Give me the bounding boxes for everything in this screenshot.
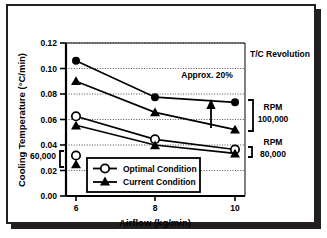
legend-item-label: Optimal Condition: [123, 164, 197, 174]
rpm-80000-label-line1: RPM: [264, 137, 283, 147]
x-tick-label: 6: [74, 203, 79, 213]
chart-figure: 0.00 0.02 0.04 0.06 0.08 0.10 0.12 6 8 1…: [0, 0, 327, 238]
data-point: [71, 121, 81, 130]
x-tick-label: 10: [230, 203, 240, 213]
open-circle-icon: [101, 164, 109, 172]
rpm-100000-label-line2: 100,000: [258, 114, 289, 124]
series-markers-60000: [71, 151, 81, 168]
legend-item-label: Current Condition: [123, 177, 196, 187]
data-point: [72, 151, 80, 159]
chart-legend: Optimal Condition Current Condition: [87, 158, 200, 192]
line-chart-svg: 0.00 0.02 0.04 0.06 0.08 0.10 0.12 6 8 1…: [0, 0, 327, 238]
rpm-100000-label-line1: RPM: [264, 102, 283, 112]
data-point: [231, 98, 239, 106]
rpm-60000-bracket: [60, 151, 64, 167]
y-tick-label: 0.00: [40, 191, 57, 201]
rpm-60000-label: 60,000: [30, 151, 56, 161]
data-point: [151, 93, 159, 101]
x-tick-labels: 6 8 10: [74, 203, 240, 213]
legend-item-optimal-condition[interactable]: Optimal Condition: [93, 164, 197, 174]
approx-20-percent-label: Approx. 20%: [181, 70, 233, 80]
y-tick-labels: 0.00 0.02 0.04 0.06 0.08 0.10 0.12: [40, 38, 57, 201]
series-markers-optimal-rpm100000: [72, 57, 239, 107]
x-tick-label: 8: [153, 203, 158, 213]
y-tick-label: 0.12: [40, 38, 57, 48]
plot-area-wrapper: 0.00 0.02 0.04 0.06 0.08 0.10 0.12 6 8 1…: [0, 0, 327, 238]
y-tick-label: 0.06: [40, 115, 57, 125]
y-tick-label: 0.10: [40, 64, 57, 74]
rpm-80000-bracket: [248, 147, 252, 157]
y-tick-label: 0.08: [40, 89, 57, 99]
rpm-100000-bracket: [248, 100, 253, 131]
y-axis-title: Cooling Temperature (°C/min): [16, 53, 27, 187]
tc-revolution-label: T/C Revolution: [250, 49, 310, 59]
data-point: [72, 112, 80, 120]
y-tick-label: 0.02: [40, 166, 57, 176]
y-tick-label: 0.04: [40, 140, 57, 150]
data-point: [71, 160, 81, 169]
data-point: [72, 57, 80, 65]
data-point: [71, 76, 81, 85]
rpm-80000-label-line2: 80,000: [260, 149, 286, 159]
x-axis-title: Airflow (kg/min): [119, 217, 191, 228]
